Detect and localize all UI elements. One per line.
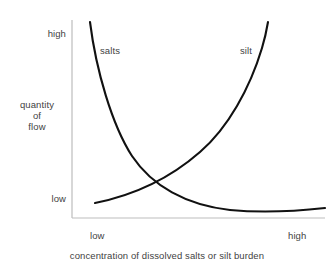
y-axis-title: quantity of flow [8, 99, 66, 132]
series-label-silt: silt [240, 45, 252, 56]
chart-figure: high low quantity of flow salts silt low… [0, 0, 334, 265]
y-axis-title-line-2: of [8, 110, 66, 121]
x-axis-tick-low: low [90, 230, 105, 241]
y-axis-tick-high: high [48, 28, 66, 39]
x-axis-tick-high: high [288, 230, 306, 241]
x-axis-caption: concentration of dissolved salts or silt… [0, 250, 334, 261]
chart-plot-area [0, 0, 334, 265]
series-label-salts: salts [100, 45, 120, 56]
y-axis-title-line-3: flow [8, 121, 66, 132]
series-line-salts [90, 22, 325, 211]
y-axis-tick-low: low [51, 193, 66, 204]
y-axis-title-line-1: quantity [8, 99, 66, 110]
